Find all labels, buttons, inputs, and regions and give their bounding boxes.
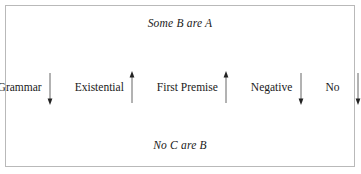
feature-label-first-premise: First Premise xyxy=(155,82,220,94)
arrow-down-icon-3 xyxy=(351,70,361,106)
premise-top-text: Some B are A xyxy=(6,17,354,29)
feature-label-existential: Existential xyxy=(73,82,126,94)
feature-item-existential: Existential xyxy=(73,70,139,106)
arrow-down-icon-1 xyxy=(44,70,57,106)
feature-item-no: No xyxy=(323,70,361,106)
feature-label-grammar: Grammar xyxy=(0,82,44,94)
feature-label-negative: Negative xyxy=(249,82,295,94)
premise-bottom-text: No C are B xyxy=(6,139,354,151)
arrow-down-icon-2 xyxy=(294,70,307,106)
feature-label-no: No xyxy=(323,82,341,94)
arrow-up-icon-1 xyxy=(126,70,139,106)
feature-item-negative: Negative xyxy=(249,70,308,106)
feature-item-first-premise: First Premise xyxy=(155,70,233,106)
figure-frame: Some B are A Grammar Existential xyxy=(5,5,355,167)
feature-arrow-row: Grammar Existential First Premise xyxy=(6,70,354,106)
feature-item-grammar: Grammar xyxy=(0,70,57,106)
arrow-up-icon-2 xyxy=(220,70,233,106)
